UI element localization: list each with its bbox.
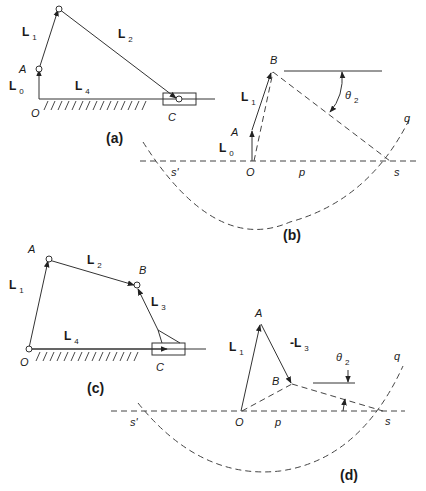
label-l2: L2: [118, 27, 133, 44]
ground-hatching: [36, 352, 138, 361]
label-l0: L0: [9, 79, 24, 96]
caption-c: (c): [87, 380, 104, 396]
vector-l1: [39, 10, 58, 69]
label-s: s: [385, 415, 391, 427]
label-b: B: [270, 54, 277, 66]
label-l1: L1: [229, 340, 244, 357]
label-s-prime: s': [130, 416, 139, 428]
label-l3: L3: [151, 295, 166, 312]
label-s: s: [394, 166, 400, 178]
vector-l1: [241, 325, 260, 411]
caption-a: (a): [106, 130, 123, 146]
label-theta2: θ2: [345, 89, 359, 105]
pin-a: [46, 256, 52, 262]
label-l1: L1: [22, 25, 37, 42]
label-o: O: [246, 166, 255, 178]
label-p: p: [298, 166, 305, 178]
label-l4: L4: [64, 329, 79, 346]
label-o: O: [31, 107, 40, 119]
label-o: O: [235, 416, 244, 428]
caption-b: (b): [283, 227, 301, 243]
label-theta2: θ2: [336, 351, 350, 367]
label-q: q: [404, 112, 411, 124]
locus-arc: [143, 118, 410, 229]
label-a: A: [230, 126, 238, 138]
slider-bracket: [158, 330, 180, 343]
angle-arc: [330, 72, 342, 112]
ground-hatching: [44, 101, 146, 110]
label-b: B: [139, 264, 146, 276]
label-c: C: [168, 111, 176, 123]
panel-b: B A O p s s' q L1 L0 θ2 (b): [140, 54, 418, 243]
label-b: B: [272, 375, 279, 387]
label-a: A: [254, 307, 262, 319]
dashed-ob: [242, 384, 292, 411]
label-o: O: [20, 356, 29, 368]
locus-arc: [138, 366, 403, 472]
dashed-bs: [292, 384, 383, 411]
panel-c: A B O C L1 L2 L3 L4 (c): [9, 243, 206, 396]
label-a: A: [18, 63, 26, 75]
mechanism-diagram: A O C L1 L2 L0 L4 (a) B A O p s s' q L1 …: [0, 0, 426, 491]
label-l0: L0: [219, 141, 234, 158]
panel-d: A B O p s s' q L1 -L3 θ2 (d): [111, 307, 405, 483]
label-l4: L4: [75, 79, 90, 96]
caption-d: (d): [340, 467, 358, 483]
pin-b: [56, 6, 62, 12]
label-neg-l3: -L3: [290, 336, 309, 353]
pin-c: [176, 96, 182, 102]
label-l1: L1: [9, 278, 24, 295]
pin-b: [134, 282, 140, 288]
label-l1: L1: [241, 90, 256, 107]
dashed-bs: [273, 72, 390, 161]
label-l2: L2: [87, 253, 102, 270]
label-s-prime: s': [171, 166, 180, 178]
vector-l1: [29, 261, 48, 348]
pin-o: [26, 346, 32, 352]
label-q: q: [394, 350, 401, 362]
angle-arrow-bottom: [343, 399, 345, 411]
label-a: A: [27, 243, 35, 255]
label-c: C: [156, 361, 164, 373]
pin-a: [36, 66, 42, 72]
panel-a: A O C L1 L2 L0 L4 (a): [9, 6, 215, 146]
label-p: p: [274, 416, 281, 428]
